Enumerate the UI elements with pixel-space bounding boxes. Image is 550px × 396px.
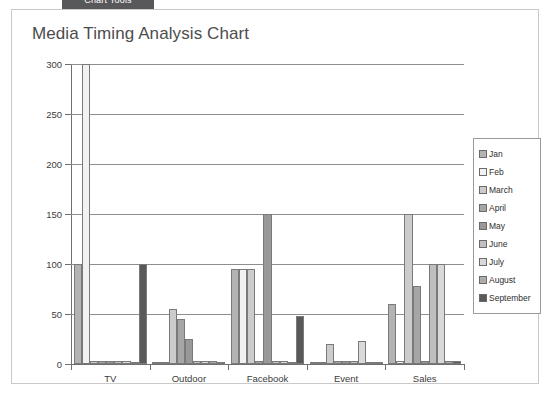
y-axis-tick-label: 0 bbox=[32, 359, 62, 370]
bar bbox=[445, 361, 453, 364]
legend-item-label: April bbox=[489, 203, 506, 213]
chart-legend: JanFebMarchAprilMayJuneJulyAugustSeptemb… bbox=[473, 138, 541, 314]
bar bbox=[326, 344, 334, 364]
legend-item-label: June bbox=[489, 239, 507, 249]
x-axis-category-label: Outdoor bbox=[172, 373, 206, 384]
legend-item[interactable]: July bbox=[479, 253, 535, 271]
legend-item[interactable]: September bbox=[479, 289, 535, 307]
legend-item-label: July bbox=[489, 257, 504, 267]
legend-color-swatch-icon bbox=[479, 222, 487, 230]
bar bbox=[255, 361, 263, 364]
bar bbox=[288, 362, 296, 364]
gridline bbox=[71, 64, 464, 65]
legend-item[interactable]: Feb bbox=[479, 163, 535, 181]
legend-item-label: August bbox=[489, 275, 515, 285]
legend-item-label: Jan bbox=[489, 149, 503, 159]
bar bbox=[404, 214, 412, 364]
y-axis-tick-mark bbox=[65, 264, 71, 265]
y-axis-tick-labels: 050100150200250300 bbox=[30, 10, 62, 396]
x-axis-tick-mark bbox=[228, 364, 229, 370]
y-axis-tick-label: 200 bbox=[32, 159, 62, 170]
legend-item-label: Feb bbox=[489, 167, 504, 177]
bar bbox=[358, 341, 366, 364]
legend-item[interactable]: April bbox=[479, 199, 535, 217]
bar bbox=[209, 361, 217, 364]
legend-item-label: May bbox=[489, 221, 505, 231]
bar bbox=[239, 269, 247, 364]
chart-card: Media Timing Analysis Chart 050100150200… bbox=[11, 9, 539, 384]
bar bbox=[453, 361, 461, 364]
plot-area bbox=[71, 64, 464, 364]
bar bbox=[437, 264, 445, 364]
legend-item[interactable]: March bbox=[479, 181, 535, 199]
x-axis-tick-mark bbox=[307, 364, 308, 370]
x-axis-tick-mark bbox=[71, 364, 72, 370]
x-axis-tick-mark bbox=[150, 364, 151, 370]
bar bbox=[201, 361, 209, 364]
gridline bbox=[71, 114, 464, 115]
bar bbox=[318, 362, 326, 364]
bar bbox=[421, 361, 429, 364]
y-axis-tick-mark bbox=[65, 114, 71, 115]
legend-color-swatch-icon bbox=[479, 204, 487, 212]
x-axis-category-label: Facebook bbox=[247, 373, 289, 384]
legend-color-swatch-icon bbox=[479, 258, 487, 266]
bar bbox=[74, 264, 82, 364]
bar bbox=[82, 64, 90, 364]
legend-item[interactable]: Jan bbox=[479, 145, 535, 163]
x-axis-category-label: Sales bbox=[413, 373, 437, 384]
legend-color-swatch-icon bbox=[479, 240, 487, 248]
bar bbox=[413, 286, 421, 364]
bar bbox=[296, 316, 304, 364]
x-axis-category-label: TV bbox=[104, 373, 116, 384]
bar bbox=[139, 264, 147, 364]
bar bbox=[342, 361, 350, 364]
y-axis-tick-mark bbox=[65, 64, 71, 65]
bar bbox=[334, 361, 342, 364]
y-axis-tick-label: 150 bbox=[32, 209, 62, 220]
y-axis-tick-mark bbox=[65, 214, 71, 215]
x-axis-tick-mark bbox=[385, 364, 386, 370]
bar bbox=[280, 361, 288, 364]
bar bbox=[90, 361, 98, 364]
legend-item[interactable]: August bbox=[479, 271, 535, 289]
bar bbox=[231, 269, 239, 364]
legend-color-swatch-icon bbox=[479, 186, 487, 194]
bar bbox=[106, 361, 114, 364]
legend-color-swatch-icon bbox=[479, 168, 487, 176]
x-axis-tick-mark bbox=[464, 364, 465, 370]
y-axis-tick-mark bbox=[65, 164, 71, 165]
bar bbox=[388, 304, 396, 364]
bar bbox=[396, 361, 404, 364]
chart-tools-tab[interactable]: Chart Tools bbox=[62, 0, 154, 9]
legend-color-swatch-icon bbox=[479, 294, 487, 302]
legend-item-label: September bbox=[489, 293, 531, 303]
bar bbox=[247, 269, 255, 364]
bar bbox=[161, 362, 169, 364]
y-axis-tick-label: 300 bbox=[32, 59, 62, 70]
bar bbox=[114, 361, 122, 364]
bar bbox=[263, 214, 271, 364]
bar bbox=[152, 362, 160, 364]
bar bbox=[350, 361, 358, 364]
x-axis-line bbox=[71, 364, 465, 365]
legend-color-swatch-icon bbox=[479, 276, 487, 284]
gridline bbox=[71, 164, 464, 165]
y-axis-tick-label: 100 bbox=[32, 259, 62, 270]
bar bbox=[310, 362, 318, 364]
bar bbox=[366, 362, 374, 364]
legend-color-swatch-icon bbox=[479, 150, 487, 158]
y-axis-tick-label: 250 bbox=[32, 109, 62, 120]
legend-item[interactable]: June bbox=[479, 235, 535, 253]
bar bbox=[131, 362, 139, 364]
bar bbox=[272, 361, 280, 364]
bar bbox=[177, 319, 185, 364]
page-title: Media Timing Analysis Chart bbox=[32, 24, 249, 44]
bar bbox=[185, 339, 193, 364]
bar bbox=[217, 362, 225, 364]
bar bbox=[374, 362, 382, 364]
legend-item[interactable]: May bbox=[479, 217, 535, 235]
y-axis-tick-label: 50 bbox=[32, 309, 62, 320]
bar bbox=[98, 361, 106, 364]
bar bbox=[122, 361, 130, 364]
